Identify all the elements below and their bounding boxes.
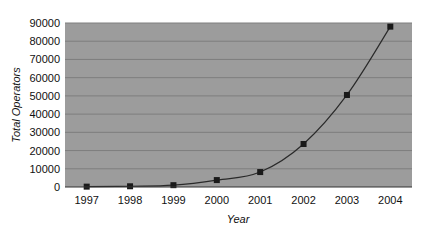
plot-area: [65, 23, 412, 187]
x-tick-label: 1999: [161, 194, 185, 206]
y-axis-tick-labels: 0100002000030000400005000060000700008000…: [29, 17, 60, 193]
y-tick-label: 40000: [29, 108, 60, 120]
data-point-2001: [257, 169, 263, 175]
x-tick-label: 2000: [205, 194, 229, 206]
x-tick-label: 2004: [378, 194, 402, 206]
x-tick-label: 2003: [335, 194, 359, 206]
data-point-2000: [214, 177, 220, 183]
x-axis-title: Year: [227, 213, 251, 225]
data-point-2002: [301, 141, 307, 147]
y-tick-label: 50000: [29, 90, 60, 102]
y-axis-title: Total Operators: [10, 67, 22, 143]
data-point-2004: [387, 24, 393, 30]
y-tick-label: 90000: [29, 17, 60, 29]
y-tick-label: 20000: [29, 145, 60, 157]
y-tick-label: 10000: [29, 163, 60, 175]
x-tick-label: 2001: [248, 194, 272, 206]
x-tick-label: 1998: [118, 194, 142, 206]
x-axis-tick-labels: 19971998199920002001200220032004: [74, 194, 402, 206]
data-point-2003: [344, 92, 350, 98]
y-tick-label: 30000: [29, 126, 60, 138]
data-point-1998: [127, 183, 133, 189]
x-tick-label: 1997: [74, 194, 98, 206]
y-tick-label: 60000: [29, 72, 60, 84]
line-chart: 0100002000030000400005000060000700008000…: [0, 0, 429, 235]
y-tick-label: 0: [54, 181, 60, 193]
x-tick-label: 2002: [291, 194, 315, 206]
y-tick-label: 70000: [29, 53, 60, 65]
y-tick-label: 80000: [29, 35, 60, 47]
